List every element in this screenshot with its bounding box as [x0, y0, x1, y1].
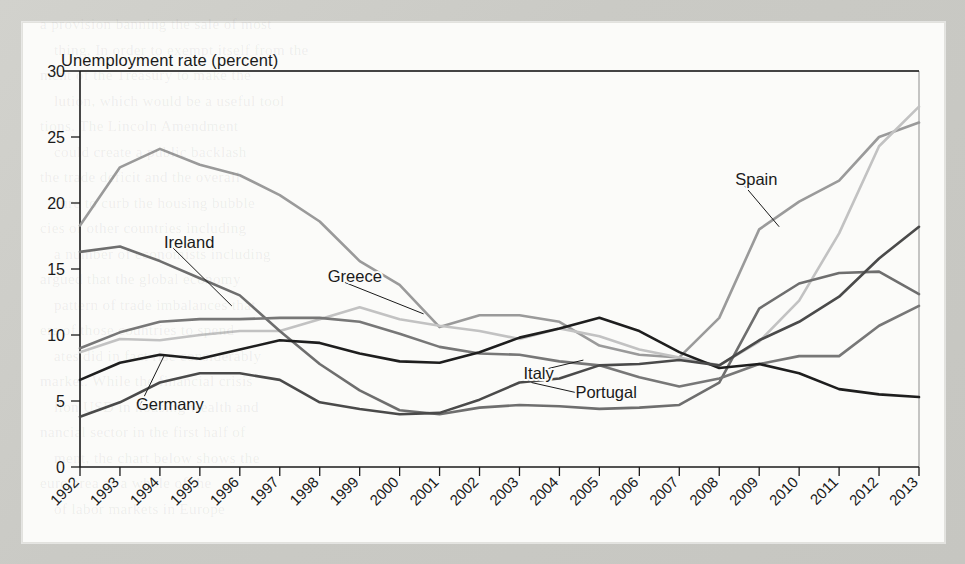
x-axis-tick-label: 2006 [606, 473, 642, 509]
plot-frame [80, 71, 919, 467]
x-axis-tick-label: 2001 [406, 473, 442, 509]
x-axis-tick-label: 2004 [526, 473, 562, 509]
x-axis-tick-label: 1996 [206, 473, 242, 509]
series-label-spain: Spain [735, 170, 777, 188]
x-axis-tick-label: 2013 [886, 473, 922, 509]
figure-card: Unemployment rate (percent) 051015202530… [22, 22, 945, 543]
series-label-germany: Germany [136, 395, 205, 413]
x-axis-tick-label: 1992 [47, 473, 83, 509]
series-label-portugal: Portugal [575, 383, 636, 401]
series-line-portugal [80, 227, 919, 417]
x-axis-tick-label: 2011 [806, 473, 841, 508]
y-axis-tick-label: 10 [47, 327, 65, 344]
y-axis-tick-label: 5 [56, 393, 65, 410]
x-axis-tick-label: 1999 [326, 473, 362, 509]
x-axis-tick-label: 2009 [726, 473, 762, 509]
y-axis-tick-label: 25 [47, 129, 65, 146]
series-label-greece: Greece [328, 267, 382, 285]
page-background: Unemployment rate (percent) 051015202530… [0, 0, 965, 564]
x-axis-tick-label: 1993 [86, 473, 122, 509]
series-line-ireland [80, 247, 919, 415]
x-axis-tick-label: 1997 [246, 473, 282, 509]
y-axis-tick-label: 20 [47, 195, 65, 212]
y-axis-tick-label: 30 [47, 63, 65, 80]
chart-plot-area: 0510152025301992199319941995199619971998… [23, 23, 944, 542]
series-label-italy: Italy [523, 364, 554, 382]
leader-line-ireland [168, 243, 232, 306]
leader-line-portugal [531, 383, 579, 394]
y-axis-tick-label: 0 [56, 459, 65, 476]
series-label-ireland: Ireland [164, 233, 214, 251]
x-axis-tick-label: 2005 [566, 473, 602, 509]
x-axis-tick-label: 2010 [766, 473, 802, 509]
x-axis-tick-label: 1998 [286, 473, 322, 509]
x-axis-tick-label: 1995 [166, 473, 202, 509]
unemployment-line-chart: 0510152025301992199319941995199619971998… [23, 23, 944, 542]
x-axis-tick-label: 2007 [646, 473, 682, 509]
x-axis-tick-label: 2012 [846, 473, 882, 509]
x-axis-tick-label: 2003 [486, 473, 522, 509]
x-axis-tick-label: 2008 [686, 473, 722, 509]
y-axis-tick-label: 15 [47, 261, 65, 278]
x-axis-tick-label: 2000 [366, 473, 402, 509]
x-axis-tick-label: 2002 [446, 473, 482, 509]
x-axis-tick-label: 1994 [126, 473, 162, 509]
